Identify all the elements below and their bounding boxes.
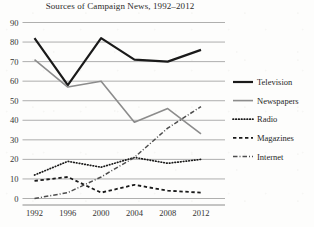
series-line-radio (35, 157, 202, 175)
legend-label-radio: Radio (257, 114, 277, 124)
y-tick-label: 40 (10, 115, 19, 125)
legend-label-newspapers: Newspapers (257, 96, 299, 106)
x-tick-label: 2012 (193, 208, 210, 218)
chart-plot: 0102030405060708090 19921996200020042008… (0, 0, 314, 227)
legend-label-internet: Internet (257, 152, 284, 162)
y-tick-label: 70 (10, 57, 19, 67)
series-line-magazines (35, 177, 202, 193)
x-tick-label: 2008 (159, 208, 176, 218)
y-tick-label: 80 (10, 37, 19, 47)
y-tick-label: 0 (14, 194, 18, 204)
x-tick-label: 1992 (26, 208, 43, 218)
y-tick-label: 50 (10, 96, 19, 106)
y-tick-label: 60 (10, 76, 19, 86)
y-tick-label: 90 (10, 18, 19, 28)
legend-label-magazines: Magazines (257, 133, 294, 143)
x-tick-label: 1996 (59, 208, 76, 218)
y-tick-label: 30 (10, 135, 19, 145)
x-tick-label: 2004 (126, 208, 144, 218)
series-lines-group (35, 38, 202, 198)
legend-label-television: Television (257, 77, 293, 87)
y-axis-tick-labels: 0102030405060708090 (10, 18, 19, 204)
legend: TelevisionNewspapersRadioMagazinesIntern… (233, 77, 299, 161)
y-tick-label: 10 (10, 174, 19, 184)
x-tick-label: 2000 (93, 208, 110, 218)
gridlines-group (23, 23, 226, 199)
y-tick-label: 20 (10, 154, 19, 164)
chart-container: Sources of Campaign News, 1992–2012 0102… (0, 0, 314, 227)
x-axis-tick-labels: 199219962000200420082012 (26, 208, 210, 218)
